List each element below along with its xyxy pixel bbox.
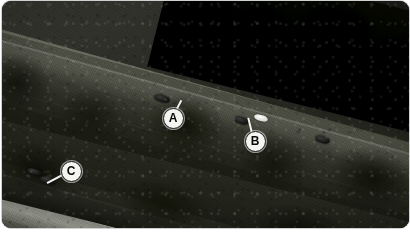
- callout-marker-a[interactable]: A: [163, 108, 184, 129]
- callout-marker-label: C: [67, 165, 76, 177]
- callout-marker-label: B: [251, 135, 260, 147]
- callout-marker-layer: ABC: [2, 1, 409, 228]
- callout-marker-label: A: [169, 112, 178, 124]
- aerial-photograph: ABC: [2, 1, 409, 228]
- screenshot-root: ABC: [0, 0, 410, 236]
- callout-marker-b[interactable]: B: [245, 131, 266, 152]
- callout-marker-c[interactable]: C: [61, 161, 82, 182]
